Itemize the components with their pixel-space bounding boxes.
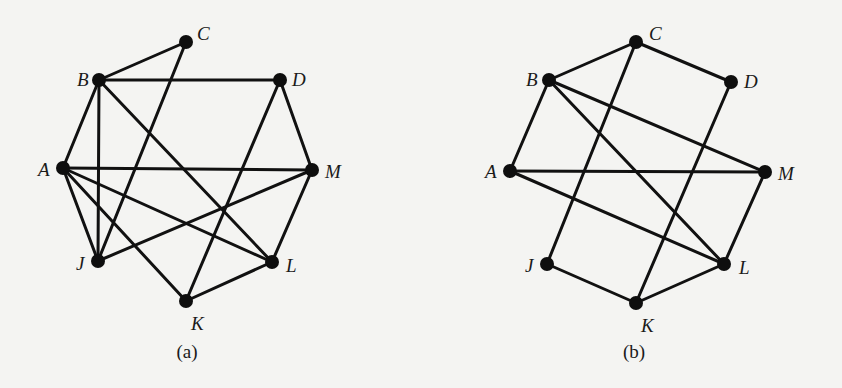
node-label-A: A bbox=[483, 161, 497, 182]
node-L bbox=[265, 255, 279, 269]
edge-B-J bbox=[98, 80, 99, 261]
edge-C-D bbox=[636, 42, 731, 82]
node-label-B: B bbox=[77, 69, 89, 90]
node-M bbox=[758, 165, 772, 179]
node-label-L: L bbox=[285, 255, 297, 276]
edge-A-M bbox=[63, 168, 312, 170]
node-B bbox=[542, 73, 556, 87]
node-J bbox=[91, 254, 105, 268]
node-D bbox=[724, 75, 738, 89]
node-D bbox=[273, 73, 287, 87]
node-label-A: A bbox=[36, 159, 50, 180]
edge-B-A bbox=[63, 80, 99, 168]
edge-B-A bbox=[510, 80, 549, 171]
node-B bbox=[92, 73, 106, 87]
node-label-L: L bbox=[738, 257, 750, 278]
node-label-D: D bbox=[743, 71, 758, 92]
edge-M-L bbox=[724, 172, 765, 264]
node-label-K: K bbox=[190, 313, 205, 334]
edge-A-K bbox=[63, 168, 186, 301]
node-L bbox=[717, 257, 731, 271]
node-label-K: K bbox=[640, 315, 655, 336]
node-M bbox=[305, 163, 319, 177]
graph-b: CBDAMJLK(b) bbox=[483, 23, 795, 363]
node-K bbox=[629, 296, 643, 310]
edge-D-M bbox=[280, 80, 312, 170]
node-label-M: M bbox=[324, 161, 342, 182]
edge-D-K bbox=[636, 82, 731, 303]
graph-a: CBDAMJLK(a) bbox=[36, 23, 342, 363]
edge-B-M bbox=[549, 80, 765, 172]
node-label-B: B bbox=[526, 69, 538, 90]
node-A bbox=[503, 164, 517, 178]
node-label-C: C bbox=[649, 23, 662, 44]
node-A bbox=[56, 161, 70, 175]
node-label-J: J bbox=[76, 253, 86, 274]
node-K bbox=[179, 294, 193, 308]
node-label-J: J bbox=[525, 255, 535, 276]
node-label-C: C bbox=[197, 23, 210, 44]
edge-J-K bbox=[547, 264, 636, 303]
edge-A-M bbox=[510, 171, 765, 172]
node-C bbox=[179, 35, 193, 49]
graph-figure: CBDAMJLK(a) CBDAMJLK(b) bbox=[0, 0, 842, 388]
node-label-D: D bbox=[291, 69, 306, 90]
graph-caption-b: (b) bbox=[623, 341, 645, 363]
node-C bbox=[629, 35, 643, 49]
node-J bbox=[540, 257, 554, 271]
graph-caption-a: (a) bbox=[176, 341, 197, 363]
edge-A-L bbox=[510, 171, 724, 264]
node-label-M: M bbox=[777, 163, 795, 184]
